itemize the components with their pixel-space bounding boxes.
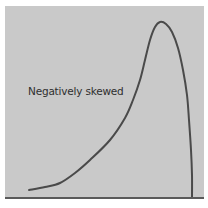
x-axis-baseline xyxy=(5,197,204,199)
distribution-curve xyxy=(29,22,192,198)
skew-curve-plot xyxy=(0,0,208,208)
annotation-label: Negatively skewed xyxy=(28,85,124,97)
